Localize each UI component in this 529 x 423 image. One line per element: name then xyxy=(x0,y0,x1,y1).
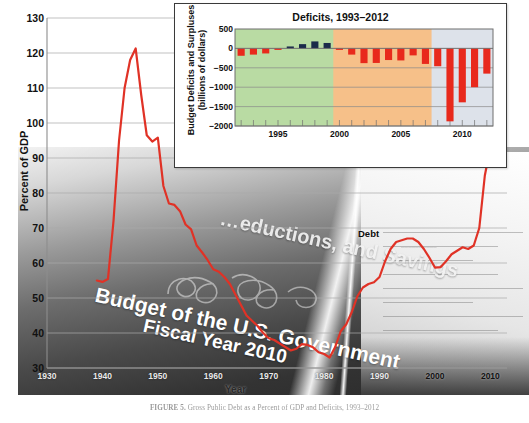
figure-caption: FIGURE 5. Gross Public Debt as a Percent… xyxy=(0,404,529,412)
inset-bar-1998 xyxy=(311,41,318,48)
inset-bar-2004 xyxy=(385,48,392,60)
main-x-axis-label: Year xyxy=(225,384,246,395)
inset-bar-1999 xyxy=(324,43,331,48)
inset-bar-1993 xyxy=(250,48,257,54)
inset-bar-2006 xyxy=(410,48,417,55)
figure-container: —————————— …eductions, and Savings Budge… xyxy=(0,0,529,423)
inset-bar-1997 xyxy=(299,44,306,48)
inset-bar-2011 xyxy=(471,48,478,87)
inset-deficits-chart: Deficits, 1993–2012 Budget Deficits and … xyxy=(174,3,507,168)
inset-bar-1992 xyxy=(238,48,245,55)
inset-bar-2005 xyxy=(397,48,404,60)
inset-bar-2008 xyxy=(434,48,441,66)
inset-bar-2012 xyxy=(483,48,490,73)
inset-bar-2009 xyxy=(446,48,453,121)
inset-era-bands xyxy=(235,29,493,126)
debt-series-label: Debt xyxy=(358,228,379,239)
inset-bar-2002 xyxy=(360,48,367,63)
inset-bar-2010 xyxy=(459,48,466,102)
figure-caption-text: Gross Public Debt as a Percent of GDP an… xyxy=(188,404,379,412)
era-band-1 xyxy=(333,29,444,126)
inset-bar-1994 xyxy=(262,48,269,53)
inset-bar-2001 xyxy=(348,48,355,54)
inset-bar-2007 xyxy=(422,48,429,64)
figure-caption-label: FIGURE 5. xyxy=(150,404,186,412)
inset-plot-area xyxy=(175,4,506,167)
inset-bar-2003 xyxy=(373,48,380,63)
